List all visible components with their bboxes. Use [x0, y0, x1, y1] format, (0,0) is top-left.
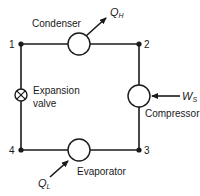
refrigeration-cycle-diagram: 1 2 3 4 Condenser QH Compressor WS Evapo…	[0, 0, 200, 196]
evaporator-label: Evaporator	[77, 166, 127, 177]
heat-in-flow: QL	[38, 161, 68, 190]
expansion-valve: Expansion valve	[15, 85, 80, 109]
node-1-label: 1	[9, 39, 15, 50]
heat-in-arrow-icon	[50, 161, 68, 177]
heat-out-symbol: QH	[110, 6, 125, 19]
condenser: Condenser	[32, 18, 90, 55]
work-in-symbol: WS	[182, 90, 197, 103]
node-3-label: 3	[144, 145, 150, 156]
node-2-dot	[136, 41, 141, 46]
heat-out-flow: QH	[86, 6, 125, 36]
work-in-flow: WS	[152, 90, 197, 103]
evaporator-circle	[68, 139, 90, 161]
condenser-label: Condenser	[32, 18, 82, 29]
node-1-dot	[18, 41, 23, 46]
expansion-valve-label-line2: valve	[33, 98, 57, 109]
node-2-label: 2	[144, 39, 150, 50]
node-3-dot	[136, 147, 141, 152]
node-4-dot	[18, 147, 23, 152]
heat-in-symbol: QL	[38, 177, 51, 190]
node-4-label: 4	[9, 145, 15, 156]
evaporator: Evaporator	[68, 139, 127, 177]
heat-out-arrow-icon	[86, 18, 106, 36]
cycle-loop	[21, 44, 139, 150]
compressor-label: Compressor	[145, 108, 200, 119]
expansion-valve-label-line1: Expansion	[33, 85, 80, 96]
compressor-circle	[128, 85, 150, 107]
